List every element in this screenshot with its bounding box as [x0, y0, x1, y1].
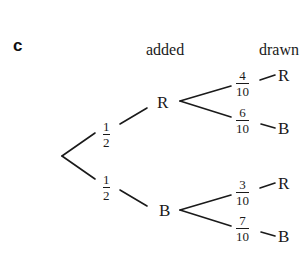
- leaf-tick-br: [260, 183, 275, 188]
- node-drawn-rr: R: [278, 67, 289, 84]
- node-added-b: B: [159, 202, 170, 219]
- prob-r-half: 1 2: [103, 120, 110, 149]
- leaf-tick-bb: [261, 232, 275, 236]
- part-label: c: [13, 36, 22, 56]
- node-drawn-br: R: [278, 175, 289, 192]
- branch-root-r: [62, 133, 95, 156]
- branch-b-r: [180, 195, 231, 210]
- leaf-tick-rb: [261, 124, 275, 128]
- prob-rr: 4 10: [236, 69, 249, 98]
- node-drawn-rb: B: [278, 120, 289, 137]
- node-drawn-bb: B: [278, 228, 289, 245]
- branch-b-b: [180, 210, 231, 226]
- header-added: added: [146, 42, 184, 58]
- prob-b-half: 1 2: [103, 173, 110, 202]
- prob-bb: 7 10: [236, 214, 249, 243]
- branch-root-r-ext: [120, 108, 147, 124]
- leaf-tick-rr: [260, 75, 275, 80]
- header-drawn: drawn: [259, 42, 299, 58]
- node-added-r: R: [157, 94, 168, 111]
- prob-br: 3 10: [236, 178, 249, 207]
- tree-branches: [0, 0, 307, 262]
- branch-r-b: [180, 101, 231, 117]
- branch-root-b-ext: [120, 190, 147, 206]
- branch-r-r: [180, 86, 231, 101]
- tree-diagram: c added drawn 1 2 1 2 R B 4 10 6 10 3 10…: [0, 0, 307, 262]
- prob-rb: 6 10: [236, 106, 249, 135]
- branch-root-b: [62, 156, 95, 179]
